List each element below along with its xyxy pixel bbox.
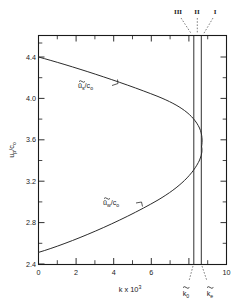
symbol-k-tilde-0: k0 (183, 287, 190, 299)
y-tick-label: 4.0 (26, 94, 36, 103)
figure-canvas: 4.4 4.0 3.6 3.2 2.8 2.4 up/co (0, 0, 250, 305)
region-label-II: II (194, 8, 200, 16)
y-tick-label: 4.4 (26, 53, 36, 62)
curve-label-uw-denom-sub: o (116, 202, 119, 208)
x-axis-title-exponent: 3 (138, 284, 141, 290)
x-tick-label: 0 (37, 268, 41, 277)
x-tick-label: 10 (223, 268, 231, 277)
x-tick-label: 4 (112, 268, 116, 277)
y-tick-label: 2.8 (26, 218, 36, 227)
x-tick-label: 6 (149, 268, 153, 277)
x-axis-title: k x 103 (119, 284, 142, 294)
y-tick-label: 2.4 (26, 260, 36, 269)
y-tick-label: 3.2 (26, 177, 36, 186)
figure-background (0, 0, 250, 305)
curve-label-us-denom-sub: o (90, 85, 93, 91)
y-axis-title-denom-sub: o (11, 142, 17, 145)
symbol-k-tilde-0-sub: 0 (186, 293, 189, 299)
x-tick-label: 2 (74, 268, 78, 277)
y-tick-label: 3.6 (26, 135, 36, 144)
region-label-I: I (214, 8, 217, 16)
x-axis-title-main: k x 10 (119, 285, 139, 294)
symbol-k-tilde-e-sub: e (210, 293, 213, 299)
symbol-k-tilde-e: ke (207, 287, 214, 299)
region-label-III: III (174, 8, 182, 16)
